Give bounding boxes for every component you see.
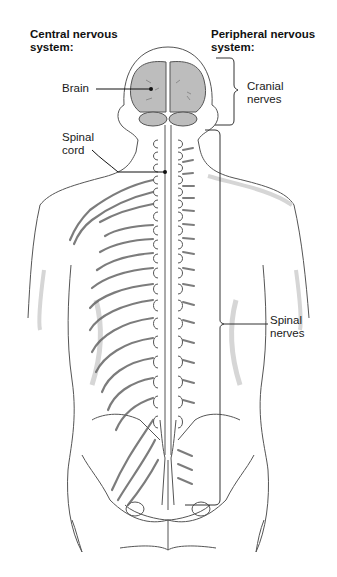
nervous-system-diagram: Central nervous system: Peripheral nervo… <box>0 0 337 577</box>
brain-label: Brain <box>62 82 89 95</box>
spinal-nerves <box>154 140 183 428</box>
spinal-nerves-label-line1: Spinal <box>270 314 305 327</box>
spinal-cord-label: Spinal cord <box>62 131 94 156</box>
cns-header-line2: system: <box>30 41 118 54</box>
body-illustration <box>0 0 337 577</box>
pns-header-line1: Peripheral nervous <box>211 28 315 41</box>
spinal-nerves-label-line2: nerves <box>270 327 305 340</box>
pns-header: Peripheral nervous system: <box>211 28 315 53</box>
cns-header-line1: Central nervous <box>30 28 118 41</box>
brain <box>130 62 205 126</box>
cns-header: Central nervous system: <box>30 28 118 53</box>
spinal-cord <box>160 125 176 510</box>
pns-header-line2: system: <box>211 41 315 54</box>
cranial-nerves-label-line2: nerves <box>247 93 283 106</box>
spinal-nerves-label: Spinal nerves <box>270 314 305 339</box>
spinal-cord-label-line1: Spinal <box>62 131 94 144</box>
cranial-nerves-label: Cranial nerves <box>247 80 283 105</box>
cranial-nerves-label-line1: Cranial <box>247 80 283 93</box>
spinal-cord-label-line2: cord <box>62 144 94 157</box>
